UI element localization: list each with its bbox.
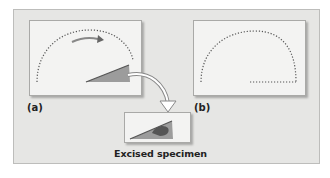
panel-a-label: (a) bbox=[27, 102, 43, 113]
direction-arrow-icon bbox=[72, 38, 98, 42]
dotted-closure-arc-b bbox=[201, 31, 296, 82]
panel-b-label: (b) bbox=[194, 102, 210, 113]
arrowhead-icon bbox=[97, 35, 104, 43]
specimen-caption: Excised specimen bbox=[114, 148, 207, 159]
